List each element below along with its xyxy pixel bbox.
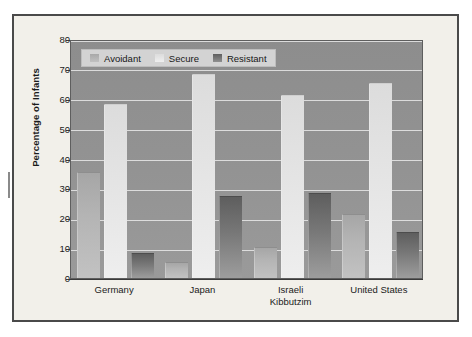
bar-resistant	[308, 193, 331, 278]
left-margin-rule	[8, 172, 10, 198]
x-tick-label-line2: Kibbutzim	[241, 296, 341, 308]
legend-label: Avoidant	[104, 53, 141, 64]
y-axis-title: Percentage of Infants	[30, 53, 41, 183]
x-tick-label-line1: Japan	[152, 284, 252, 296]
bar-avoidant	[77, 172, 100, 278]
bar-resistant	[131, 253, 154, 278]
legend-item-avoidant: Avoidant	[90, 53, 141, 64]
x-tick-label-line1: Israeli	[241, 284, 341, 296]
bar-secure	[104, 104, 127, 278]
x-tick-label-line1: Germany	[64, 284, 164, 296]
x-tick-label: Germany	[64, 284, 164, 296]
bar-resistant	[396, 232, 419, 278]
x-tick-label: Japan	[152, 284, 252, 296]
bar-avoidant	[165, 262, 188, 278]
legend-swatch-icon	[155, 54, 164, 62]
y-axis-ticks: 80706050403020100	[40, 40, 70, 279]
gridline	[71, 70, 422, 71]
legend-swatch-icon	[90, 54, 99, 62]
legend-item-secure: Secure	[155, 53, 199, 64]
gridline	[71, 41, 422, 42]
bar-chart: Percentage of Infants 80706050403020100 …	[14, 16, 461, 324]
bar-secure	[281, 95, 304, 278]
bar-secure	[369, 83, 392, 278]
figure-frame: Percentage of Infants 80706050403020100 …	[12, 14, 459, 322]
bar-avoidant	[342, 214, 365, 278]
bar-resistant	[219, 196, 242, 278]
bar-avoidant	[254, 247, 277, 278]
plot-area: AvoidantSecureResistant	[70, 40, 423, 279]
x-tick-label: IsraeliKibbutzim	[241, 284, 341, 308]
legend-swatch-icon	[213, 54, 222, 62]
x-tick-label: United States	[329, 284, 429, 296]
bar-secure	[192, 74, 215, 278]
chart-legend: AvoidantSecureResistant	[81, 49, 276, 67]
legend-item-resistant: Resistant	[213, 53, 267, 64]
x-axis-line	[70, 279, 423, 280]
legend-label: Resistant	[227, 53, 267, 64]
legend-label: Secure	[169, 53, 199, 64]
x-tick-label-line1: United States	[329, 284, 429, 296]
